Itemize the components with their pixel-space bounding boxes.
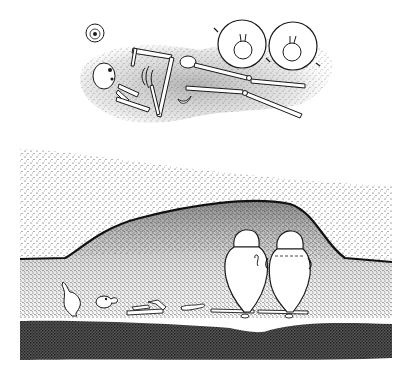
- small-vessel-icon: [86, 24, 104, 42]
- burial-illustration: [0, 0, 410, 372]
- section-view: [20, 149, 392, 360]
- skull-icon: [93, 63, 115, 89]
- plan-view: [80, 20, 332, 123]
- base-layer: [20, 321, 392, 360]
- illustration-svg: [0, 0, 410, 372]
